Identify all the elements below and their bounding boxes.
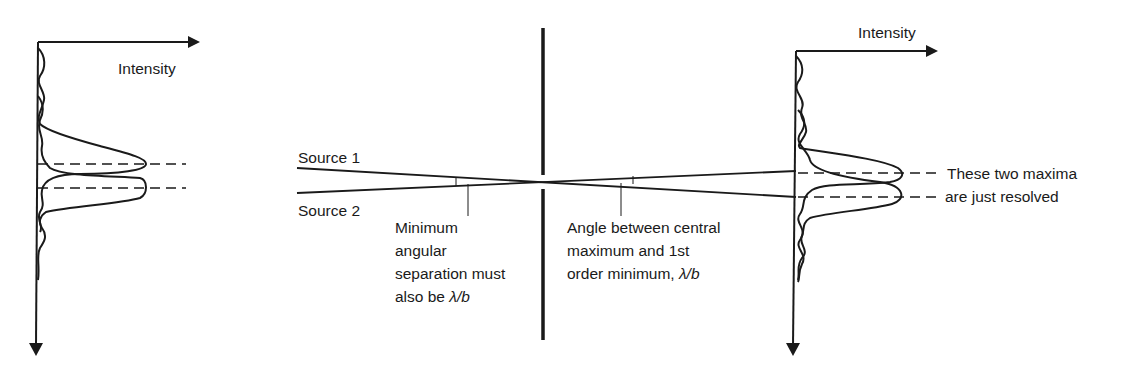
ray-source-2 [297, 171, 796, 193]
right-intensity-plot: Intensity These two maxima are just reso… [786, 24, 1077, 356]
resolved-annotation-line1: These two maxima [947, 165, 1077, 182]
right-diffraction-curve-2 [798, 110, 901, 282]
min-angle-note-line1: Minimum [395, 219, 458, 236]
left-vertical-axis [36, 42, 38, 346]
min-angle-note-symbol: λ/b [448, 288, 470, 305]
left-intensity-plot: Intensity [29, 36, 200, 356]
left-intensity-label: Intensity [118, 60, 176, 77]
min-angle-note-line4: also be λ/b [395, 288, 470, 305]
min-angle-note-line3: separation must [395, 265, 506, 282]
first-minimum-note: Angle between central maximum and 1st or… [567, 219, 720, 282]
first-minimum-note-line3-prefix: order minimum, [567, 265, 679, 282]
first-minimum-note-line3: order minimum, λ/b [567, 265, 700, 282]
right-intensity-label: Intensity [858, 24, 916, 41]
rays [297, 168, 796, 216]
right-right-arrow-icon [926, 45, 938, 57]
source-2-label: Source 2 [298, 202, 360, 219]
min-angle-note-line4-prefix: also be [395, 288, 449, 305]
source-1-label: Source 1 [298, 149, 360, 166]
first-minimum-note-line1: Angle between central [567, 219, 720, 236]
right-down-arrow-icon [786, 343, 800, 356]
first-minimum-note-symbol: λ/b [678, 265, 700, 282]
left-right-arrow-icon [188, 36, 200, 48]
min-angle-note-line2: angular [395, 242, 447, 259]
min-angle-note: Minimum angular separation must also be … [395, 219, 506, 305]
left-down-arrow-icon [29, 343, 43, 356]
resolution-diagram: Intensity Source 1 Source 2 Minimum angu… [0, 0, 1143, 381]
first-minimum-note-line2: maximum and 1st [567, 242, 690, 259]
resolved-annotation-line2: are just resolved [945, 188, 1059, 205]
right-diffraction-curve-1 [796, 56, 902, 280]
right-vertical-axis [793, 51, 796, 346]
